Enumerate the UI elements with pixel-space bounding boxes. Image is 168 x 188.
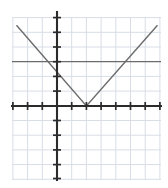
graph-plot-area [0,0,168,188]
grid-lines [12,17,161,180]
absolute-value-series [17,25,158,106]
coordinate-grid-graph: y = |x - 2| y = 3 [0,0,168,188]
